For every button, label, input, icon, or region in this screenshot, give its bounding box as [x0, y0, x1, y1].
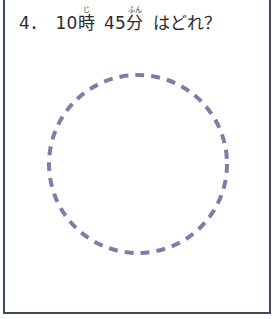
question-text-line: 4． 10 じ 時 45 ふん 分 はどれ？ — [19, 7, 222, 39]
minute-value: 45 — [104, 15, 126, 32]
hour-kanji: 時 — [78, 15, 95, 32]
hour-kanji-with-furigana: じ 時 — [78, 7, 95, 32]
worksheet-card: 4． 10 じ 時 45 ふん 分 はどれ？ — [3, 0, 271, 314]
hour-value: 10 — [55, 15, 77, 32]
question-header: 4． 10 じ 時 45 ふん 分 はどれ？ — [5, 0, 269, 39]
minute-kanji-with-furigana: ふん 分 — [126, 7, 143, 32]
question-number-label: 4． — [19, 15, 47, 32]
dashed-circle-outline — [49, 75, 227, 253]
dashed-circle-icon — [45, 71, 231, 257]
question-prompt-tail: はどれ？ — [153, 15, 222, 32]
answer-area — [5, 39, 269, 316]
minute-kanji: 分 — [126, 15, 143, 32]
